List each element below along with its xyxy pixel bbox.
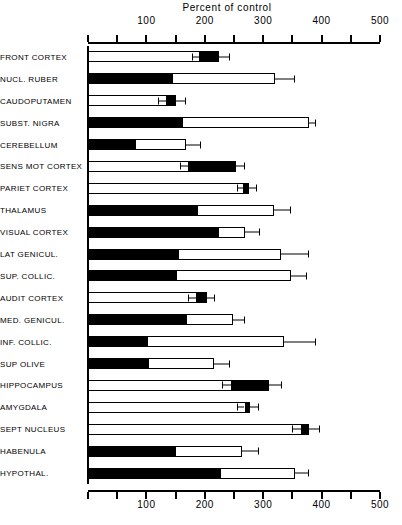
error-bar-outer [269,385,282,386]
error-bar-outer [207,297,216,298]
error-bar-cap [315,119,316,126]
error-bar-outer [214,363,230,364]
category-label: NUCL. RUBER [0,74,82,83]
x-tick-top-200 [204,35,206,42]
error-bar-cap [258,448,259,455]
error-bar-outer [309,122,316,123]
x-tick-label-bottom-100: 100 [137,499,155,510]
bar-row: PARIET CORTEX [88,183,380,194]
category-label: VISUAL CORTEX [0,228,82,237]
chart-title: Percent of control [0,2,402,13]
bar-segment-filled [88,358,149,369]
bar-row: HABENULA [88,446,380,457]
category-label: SUBST. NIGRA [0,118,82,127]
x-tick-top-150 [175,35,177,42]
error-bar-inner [176,122,184,123]
error-bar-outer [249,188,258,189]
error-bar-inner [158,100,166,101]
x-tick-top-500 [379,35,381,42]
category-label: HABENULA [0,447,82,456]
category-label: PARIET CORTEX [0,184,82,193]
error-bar-cap [308,470,309,477]
x-tick-top-400 [321,35,323,42]
x-tick-bottom-350 [291,492,293,499]
error-bar-outer [236,166,245,167]
error-bar-outer [176,100,187,101]
error-bar-cap [256,185,257,192]
axis-line-top [88,42,380,44]
error-bar-cap [214,294,215,301]
bar-segment-filled [88,446,176,457]
error-bar-cap [306,272,307,279]
bar-row: HYPOTHAL. [88,468,380,479]
plot-area: FRONT CORTEXNUCL. RUBERCAUDOPUTAMENSUBST… [88,46,380,484]
x-tick-bottom-450 [350,492,352,499]
error-bar-outer [242,451,260,452]
x-tick-label-top-200: 200 [196,15,214,26]
error-bar-inner [143,363,149,364]
category-label: THALAMUS [0,206,82,215]
error-bar-cap [170,448,171,455]
error-bar-cap [185,97,186,104]
bar-row: CEREBELLUM [88,139,380,150]
bar-segment-filled [88,73,173,84]
bar-row: SEPT NUCLEUS [88,424,380,435]
error-bar-outer [295,473,308,474]
x-tick-label-bottom-300: 300 [254,499,272,510]
x-tick-top-0 [87,35,89,42]
error-bar-inner [214,473,222,474]
error-bar-cap [172,272,173,279]
bar-row: AMYGDALA [88,402,380,413]
bar-row: FRONT CORTEX [88,51,380,62]
bar-segment-filled [88,205,198,216]
error-bar-cap [173,251,174,258]
error-bar-cap [192,53,193,60]
x-tick-top-250 [233,35,235,42]
x-tick-top-100 [145,35,147,42]
category-label: MED. GENICUL. [0,315,82,324]
error-bar-cap [258,404,259,411]
error-bar-cap [180,163,181,170]
error-bar-outer [233,319,245,320]
error-bar-cap [181,316,182,323]
error-bar-cap [290,207,291,214]
error-bar-outer [274,210,292,211]
error-bar-outer [309,429,321,430]
error-bar-inner [172,275,178,276]
bar-segment-filled [88,249,179,260]
bar-segment-filled [88,336,148,347]
bar-segment-filled [188,161,235,172]
category-label: CEREBELLUM [0,140,82,149]
x-tick-label-bottom-500: 500 [371,499,389,510]
bar-segment-filled [88,468,221,479]
error-bar-inner [222,385,231,386]
error-bar-cap [200,141,201,148]
error-bar-inner [142,341,148,342]
x-tick-label-top-300: 300 [254,15,272,26]
error-bar-cap [214,470,215,477]
x-tick-bottom-150 [175,492,177,499]
x-tick-bottom-200 [204,492,206,499]
bar-segment-filled [88,117,183,128]
bar-row: AUDIT CORTEX [88,292,380,303]
bar-segment-filled [199,51,219,62]
error-bar-cap [294,75,295,82]
error-bar-inner [237,188,243,189]
error-bar-cap [229,360,230,367]
error-bar-inner [237,407,245,408]
x-tick-bottom-0 [87,492,89,499]
error-bar-cap [292,426,293,433]
category-label: HYPOTHAL. [0,469,82,478]
error-bar-cap [237,185,238,192]
error-bar-cap [244,316,245,323]
bar-row: SUBST. NIGRA [88,117,380,128]
error-bar-inner [292,429,301,430]
bar-row: VISUAL CORTEX [88,227,380,238]
error-bar-cap [188,294,189,301]
category-label: SEPT NUCLEUS [0,425,82,434]
error-bar-inner [180,166,188,167]
error-bar-cap [130,141,131,148]
error-bar-cap [212,229,213,236]
bar-segment-filled [88,314,187,325]
bar-row: NUCL. RUBER [88,73,380,84]
